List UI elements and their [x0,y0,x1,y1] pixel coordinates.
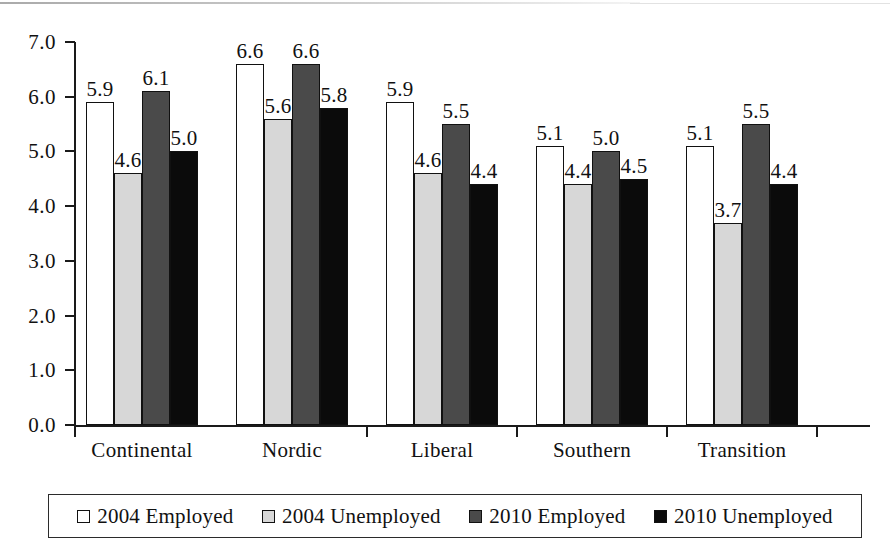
x-axis-tick [74,427,76,437]
bar-value-label: 4.6 [414,150,441,171]
bar-chart: 0.01.02.03.04.05.06.07.0 5.94.66.15.06.6… [0,0,890,470]
x-axis-line [74,425,870,427]
bar: 4.5 [620,179,648,425]
y-axis-tick-label: 0.0 [28,415,56,436]
bar: 5.5 [742,124,770,425]
y-axis-tick: 1.0 [65,369,75,371]
legend-item-label: 2004 Unemployed [282,506,441,527]
bar-value-label: 5.1 [686,123,713,144]
bar: 4.4 [770,184,798,425]
bar: 5.9 [86,102,114,425]
black-square-swatch [654,510,667,523]
white-square-swatch [77,510,90,523]
bar: 5.5 [442,124,470,425]
y-axis-tick-label: 6.0 [28,86,56,107]
bar-value-label: 6.1 [142,68,169,89]
bar: 6.6 [292,64,320,425]
bar: 4.6 [414,173,442,425]
legend-item[interactable]: 2004 Unemployed [262,506,441,527]
bar-value-label: 5.0 [592,128,619,149]
bar-value-label: 5.8 [320,85,347,106]
y-axis-tick: 7.0 [65,41,75,43]
x-axis-category-label: Nordic [262,440,322,461]
bar-value-label: 4.4 [770,161,797,182]
x-axis-category-label: Southern [553,440,631,461]
bar-group: 5.94.65.54.4 [386,42,498,425]
light-gray-square-swatch [262,510,275,523]
bar-value-label: 4.6 [114,150,141,171]
legend-item[interactable]: 2010 Employed [469,506,625,527]
bar: 5.0 [170,151,198,425]
bar-value-label: 6.6 [292,41,319,62]
bar-value-label: 6.6 [236,41,263,62]
bar: 6.1 [142,91,170,425]
y-axis-tick: 6.0 [65,96,75,98]
bar-value-label: 5.6 [264,96,291,117]
bar: 5.9 [386,102,414,425]
y-axis-tick-label: 7.0 [28,32,56,53]
legend-item-label: 2010 Unemployed [674,506,833,527]
bar-value-label: 5.1 [536,123,563,144]
bar-group: 6.65.66.65.8 [236,42,348,425]
y-axis-tick-label: 2.0 [28,305,56,326]
plot-area: 5.94.66.15.06.65.66.65.85.94.65.54.45.14… [76,42,870,425]
bar-group: 5.94.66.15.0 [86,42,198,425]
bar-value-label: 5.9 [86,79,113,100]
dark-gray-square-swatch [469,510,482,523]
legend-item[interactable]: 2010 Unemployed [654,506,833,527]
y-axis-tick: 2.0 [65,315,75,317]
bar-group: 5.14.45.04.5 [536,42,648,425]
bar: 5.1 [536,146,564,425]
y-axis-tick: 5.0 [65,150,75,152]
bar-group: 5.13.75.54.4 [686,42,798,425]
bar-value-label: 4.4 [470,161,497,182]
bar-value-label: 5.0 [170,128,197,149]
legend-item-label: 2010 Employed [489,506,625,527]
y-axis-tick-label: 1.0 [28,360,56,381]
bar: 5.0 [592,151,620,425]
bar-value-label: 5.9 [386,79,413,100]
x-axis-tick [816,427,818,437]
bar: 5.1 [686,146,714,425]
y-axis-tick: 0.0 [65,424,75,426]
x-axis-tick [516,427,518,437]
bar: 6.6 [236,64,264,425]
y-axis-tick-label: 4.0 [28,196,56,217]
bar: 4.4 [470,184,498,425]
x-axis-category-label: Transition [698,440,787,461]
y-axis-tick-label: 3.0 [28,250,56,271]
bar-value-label: 4.4 [564,161,591,182]
y-axis-tick-label: 5.0 [28,141,56,162]
bar: 4.4 [564,184,592,425]
y-axis-tick: 3.0 [65,260,75,262]
bar-value-label: 5.5 [442,101,469,122]
bar-value-label: 3.7 [714,200,741,221]
x-axis-tick [366,427,368,437]
x-axis-tick [666,427,668,437]
bar: 5.8 [320,108,348,425]
y-axis-tick: 4.0 [65,205,75,207]
bar: 5.6 [264,119,292,425]
bar: 4.6 [114,173,142,425]
bar-value-label: 5.5 [742,101,769,122]
bar-value-label: 4.5 [620,156,647,177]
bar: 3.7 [714,223,742,425]
chart-legend: 2004 Employed2004 Unemployed2010 Employe… [48,494,862,538]
legend-item-label: 2004 Employed [97,506,233,527]
x-axis-category-label: Continental [91,440,192,461]
legend-item[interactable]: 2004 Employed [77,506,233,527]
x-axis-category-label: Liberal [411,440,474,461]
